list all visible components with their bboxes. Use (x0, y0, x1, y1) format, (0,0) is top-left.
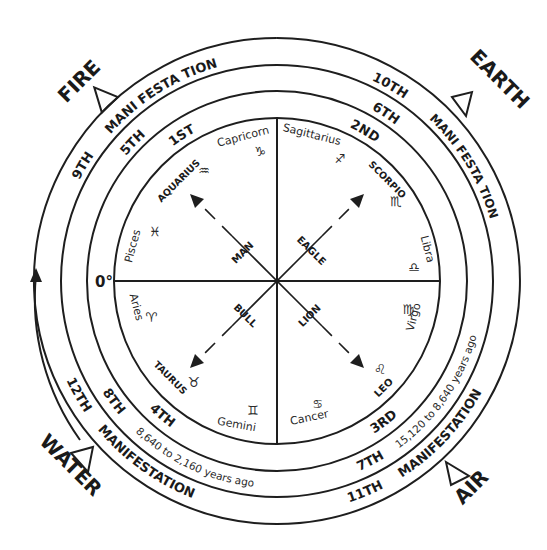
aries-icon: ♈ (145, 310, 157, 325)
pisces-icon: ♓ (149, 224, 161, 239)
arrow-to-scorpio (322, 200, 358, 236)
arrowhead-icon (190, 354, 204, 368)
water-label: WATER (35, 429, 107, 501)
label-8th: 8TH (100, 385, 129, 417)
arrow-to-taurus (196, 326, 232, 362)
virgo-icon: ♍ (402, 302, 414, 317)
libra-icon: ♎ (408, 260, 420, 275)
label-9th: 9TH (69, 149, 97, 182)
arrowhead-icon (350, 194, 364, 208)
element-water: WATER (35, 429, 107, 501)
earth-label: EARTH (465, 44, 534, 113)
arrowhead-icon (30, 268, 42, 282)
creature-eagle: EAGLE (295, 234, 328, 267)
creature-lion: LION (296, 302, 323, 329)
sagittarius-icon: ♐ (335, 152, 346, 166)
creature-man: MAN (229, 239, 255, 265)
element-air: AIR (446, 462, 493, 509)
zero-degree-label: 0° (95, 273, 113, 291)
earth-triangle-icon (452, 92, 472, 116)
air-label: AIR (449, 465, 493, 509)
sign-aries: Aries (127, 292, 147, 322)
gemini-icon: ♊ (247, 403, 259, 418)
timespan-bottom-right: 15,120 to 8,640 years ago (393, 333, 479, 450)
creature-bull: BULL (232, 302, 260, 330)
arrow-to-leo (322, 326, 358, 362)
label-1st: 1ST (166, 121, 198, 149)
sign-sagittarius: Sagittarius (281, 121, 342, 148)
label-manifestation-tr: MANI FESTA TION (427, 111, 501, 220)
label-6th: 6TH (370, 99, 403, 127)
sign-scorpio: SCORPIO (367, 159, 409, 201)
zodiac-manifestation-diagram: MAN EAGLE LION BULL Capricorn ♑ Sagittar… (0, 0, 547, 550)
leo-icon: ♌ (374, 361, 387, 377)
element-earth: EARTH (452, 44, 535, 116)
arrowhead-icon (350, 354, 364, 368)
fire-triangle-icon (94, 84, 119, 113)
taurus-icon: ♉ (188, 374, 201, 390)
sign-pisces: Pisces (122, 228, 143, 264)
capricorn-icon: ♑ (254, 144, 266, 159)
cancer-icon: ♋ (313, 397, 324, 411)
arrowhead-icon (190, 194, 204, 208)
label-4th: 4TH (147, 400, 178, 430)
sign-cancer: Cancer (289, 407, 330, 428)
element-fire: FIRE (53, 55, 120, 113)
label-3rd: 3RD (367, 407, 400, 437)
label-12th: 12TH (63, 375, 95, 415)
arrow-to-aquarius (196, 200, 232, 236)
aquarius-icon: ♒ (198, 163, 210, 178)
scorpio-icon: ♏ (390, 194, 402, 209)
